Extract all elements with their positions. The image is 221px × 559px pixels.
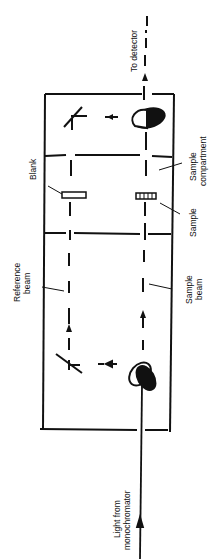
spectrophotometer-diagram: To detector Sample compartment Blank Sam… (0, 0, 221, 559)
blank-cuvette (62, 192, 86, 198)
bottom-reference-mirror-icon (56, 354, 82, 373)
reference-beam-path (66, 160, 72, 350)
reference-beam-label-2: beam (22, 273, 32, 294)
to-detector-label: To detector (129, 30, 139, 72)
label-leaders (42, 163, 182, 291)
top-chopper-mirror-icon (130, 104, 168, 132)
top-reference-mirror-icon (64, 107, 87, 130)
recombine-arrow (105, 114, 118, 120)
reference-beam-label: Reference (12, 263, 22, 302)
sample-label: Sample (188, 208, 198, 237)
blank-label: Blank (28, 158, 38, 180)
incoming-light-path (137, 385, 143, 559)
sample-beam-label-2: beam (194, 279, 204, 300)
sample-compartment-label-2: compartment (198, 136, 208, 186)
light-source-label: Light from (112, 500, 122, 538)
detector-beam-path (142, 16, 148, 150)
light-source-label-2: monochromator (122, 490, 132, 550)
sample-compartment-label: Sample (188, 152, 198, 181)
sample-cuvette (136, 193, 156, 199)
sample-beam-label: Sample (184, 275, 194, 304)
beam-split-arrow (98, 361, 117, 367)
sample-beam-path (140, 160, 146, 350)
